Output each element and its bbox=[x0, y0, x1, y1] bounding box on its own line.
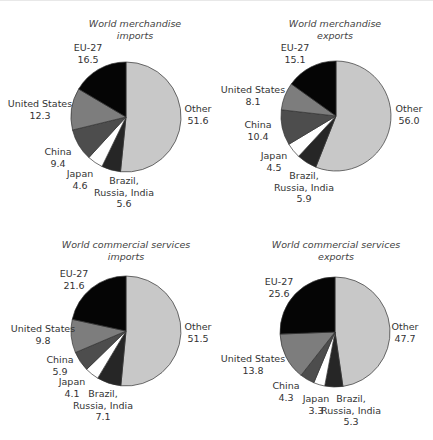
slice-label-china: China10.4 bbox=[244, 119, 271, 142]
slice-label-united-states: United States8.1 bbox=[221, 84, 285, 107]
slice-name: Other bbox=[392, 321, 419, 333]
slice-value: 25.6 bbox=[265, 288, 293, 300]
slice-name: Russia, India bbox=[274, 182, 334, 194]
pie-slice-other bbox=[120, 62, 181, 172]
slice-name: Japan bbox=[261, 150, 288, 162]
slice-label-other: Other47.7 bbox=[392, 321, 419, 344]
slice-label-china: China4.3 bbox=[272, 380, 299, 403]
slice-name: Other bbox=[396, 103, 423, 115]
slice-value: 51.6 bbox=[185, 115, 212, 127]
slice-value: 5.3 bbox=[321, 416, 381, 428]
slice-name: Other bbox=[185, 321, 212, 333]
slice-name: Russia, India bbox=[94, 187, 154, 199]
slice-name: China bbox=[46, 354, 73, 366]
slice-value: 9.8 bbox=[11, 335, 75, 347]
slice-value: 8.1 bbox=[221, 96, 285, 108]
slice-name: United States bbox=[11, 323, 75, 335]
slice-name: Russia, India bbox=[321, 405, 381, 417]
slice-value: 7.1 bbox=[73, 411, 133, 423]
pie-slice-other bbox=[335, 277, 390, 386]
slice-label-brazil-russia-india: Brazil,Russia, India5.3 bbox=[321, 393, 381, 428]
slice-label-brazil-russia-india: Brazil,Russia, India5.9 bbox=[274, 170, 334, 205]
pie-panel-services-imports: World commercial servicesimportsEU-2721.… bbox=[0, 220, 216, 440]
slice-value: 51.5 bbox=[185, 333, 212, 345]
slice-name: EU-27 bbox=[265, 276, 293, 288]
slice-name: EU-27 bbox=[74, 42, 102, 54]
pie-panel-merchandise-exports: World merchandiseexportsEU-2715.1United … bbox=[216, 0, 432, 220]
slice-value: 16.5 bbox=[74, 54, 102, 66]
slice-value: 4.3 bbox=[272, 392, 299, 404]
slice-label-other: Other51.6 bbox=[185, 103, 212, 126]
slice-name: United States bbox=[8, 98, 72, 110]
slice-name: Brazil, bbox=[94, 175, 154, 187]
slice-label-china: China9.4 bbox=[44, 146, 71, 169]
slice-name: United States bbox=[221, 353, 285, 365]
slice-label-eu-27: EU-2725.6 bbox=[265, 276, 293, 299]
slice-value: 5.9 bbox=[274, 193, 334, 205]
slice-value: 15.1 bbox=[281, 54, 309, 66]
slice-name: EU-27 bbox=[281, 42, 309, 54]
slice-name: Brazil, bbox=[73, 388, 133, 400]
slice-name: Brazil, bbox=[274, 170, 334, 182]
slice-name: China bbox=[272, 380, 299, 392]
slice-label-united-states: United States12.3 bbox=[8, 98, 72, 121]
slice-name: China bbox=[44, 146, 71, 158]
slice-label-united-states: United States13.8 bbox=[221, 353, 285, 376]
slice-value: 47.7 bbox=[392, 333, 419, 345]
slice-label-brazil-russia-india: Brazil,Russia, India5.6 bbox=[94, 175, 154, 210]
slice-value: 56.0 bbox=[396, 115, 423, 127]
slice-value: 4.6 bbox=[67, 180, 94, 192]
slice-name: Brazil, bbox=[321, 393, 381, 405]
pie-panel-services-exports: World commercial servicesexportsEU-2725.… bbox=[216, 220, 432, 440]
slice-label-eu-27: EU-2715.1 bbox=[281, 42, 309, 65]
slice-label-eu-27: EU-2721.6 bbox=[60, 268, 88, 291]
slice-name: Japan bbox=[59, 376, 86, 388]
slice-name: Russia, India bbox=[73, 400, 133, 412]
slice-name: EU-27 bbox=[60, 268, 88, 280]
slice-label-japan: Japan4.6 bbox=[67, 168, 94, 191]
slice-label-other: Other56.0 bbox=[396, 103, 423, 126]
slice-value: 21.6 bbox=[60, 280, 88, 292]
slice-label-china: China5.9 bbox=[46, 354, 73, 377]
slice-name: United States bbox=[221, 84, 285, 96]
slice-name: Other bbox=[185, 103, 212, 115]
slice-name: Japan bbox=[67, 168, 94, 180]
slice-label-brazil-russia-india: Brazil,Russia, India7.1 bbox=[73, 388, 133, 423]
slice-value: 5.6 bbox=[94, 198, 154, 210]
slice-value: 13.8 bbox=[221, 365, 285, 377]
slice-value: 12.3 bbox=[8, 110, 72, 122]
slice-label-eu-27: EU-2716.5 bbox=[74, 42, 102, 65]
slice-value: 10.4 bbox=[244, 131, 271, 143]
slice-name: China bbox=[244, 119, 271, 131]
slice-label-other: Other51.5 bbox=[185, 321, 212, 344]
pie-panel-merchandise-imports: World merchandiseimportsEU-2716.5United … bbox=[0, 0, 216, 220]
pie-slice-other bbox=[121, 276, 181, 386]
slice-label-united-states: United States9.8 bbox=[11, 323, 75, 346]
